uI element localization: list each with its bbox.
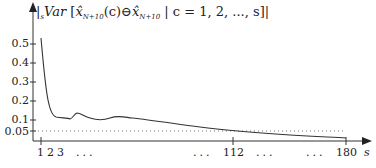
x-ellipsis-4: ...	[306, 146, 326, 159]
y-tick-label-0.3: 0.3	[0, 75, 29, 88]
chart-canvas	[0, 0, 376, 168]
variance-curve	[41, 38, 346, 138]
x-tick-label-2: 2	[47, 146, 54, 159]
x-ellipsis-2: ...	[193, 146, 213, 159]
x-axis-label: s	[364, 146, 370, 159]
x-tick-label-3: 3	[57, 146, 64, 159]
y-tick-label-0.5: 0.5	[0, 37, 29, 50]
x-ellipsis-1: ...	[76, 146, 96, 159]
x-tick-label-1: 1	[37, 146, 44, 159]
y-tick-label-0.05: 0.05	[0, 125, 29, 138]
x-tick-label-112: 112	[223, 146, 244, 159]
x-axis-arrow-icon	[362, 137, 372, 145]
x-ellipsis-3: ...	[256, 146, 276, 159]
x-tick-label-180: 180	[336, 146, 357, 159]
chart-title: |sVar [x̂N+10(c)⊖x̂N+10 | c = 1, 2, ...,…	[36, 4, 269, 21]
y-tick-label-0.2: 0.2	[0, 94, 29, 107]
y-tick-label-0.4: 0.4	[0, 56, 29, 69]
